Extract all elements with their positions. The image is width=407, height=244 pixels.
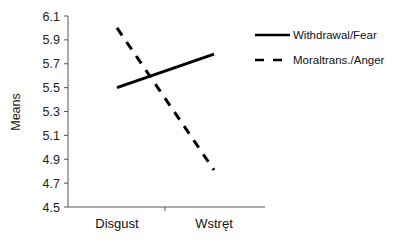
x-categories: DisgustWstręt [95, 216, 233, 231]
line-chart: 6.15.95.75.55.35.14.94.74.5 Means Disgus… [0, 0, 407, 244]
y-tick-label: 5.7 [43, 57, 60, 71]
y-tick-label: 4.5 [43, 201, 60, 215]
legend-label-withdrawal-fear: Withdrawal/Fear [293, 29, 377, 41]
series-lines [117, 28, 214, 170]
series-line-solid [117, 54, 214, 87]
y-tick-label: 4.9 [43, 153, 60, 167]
y-ticks: 6.15.95.75.55.35.14.94.74.5 [43, 10, 68, 215]
y-tick-label: 5.3 [43, 105, 60, 119]
y-tick-label: 6.1 [43, 10, 60, 24]
y-tick-label: 5.5 [43, 81, 60, 95]
series-line-dashed [117, 28, 214, 170]
x-category-label: Disgust [95, 216, 139, 231]
y-axis-title: Means [9, 93, 23, 131]
legend: Withdrawal/Fear Moraltrans./Anger [255, 29, 385, 66]
legend-label-moral-anger: Moraltrans./Anger [293, 54, 385, 66]
y-tick-label: 4.7 [43, 177, 60, 191]
y-tick-label: 5.1 [43, 129, 60, 143]
x-category-label: Wstręt [195, 216, 233, 231]
y-tick-label: 5.9 [43, 33, 60, 47]
